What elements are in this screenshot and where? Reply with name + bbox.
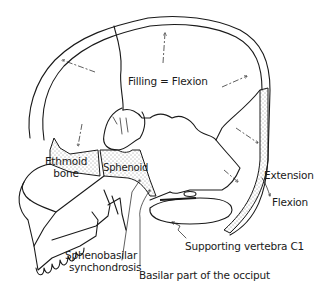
vertebra-c1 — [150, 198, 232, 224]
cranial-vault — [29, 17, 270, 236]
sphenoid-bone — [100, 108, 156, 196]
label-sphenobasilar-line2: synchondrosis — [69, 261, 141, 273]
label-extension: Extension — [264, 169, 314, 181]
skull-diagram: Filling = Flexion Ethmoid bone Sphenoid … — [0, 0, 325, 293]
motion-arrows — [62, 33, 270, 266]
label-ethmoid-line2: bone — [40, 167, 92, 179]
label-filling-flexion: Filling = Flexion — [128, 75, 208, 87]
label-supporting-vertebra-c1: Supporting vertebra C1 — [185, 240, 304, 252]
label-basilar-part-occiput: Basilar part of the occiput — [139, 269, 270, 281]
label-sphenoid: Sphenoid — [103, 162, 148, 174]
label-ethmoid-line1: Ethmoid — [40, 155, 92, 167]
label-sphenobasilar-line1: Sphenobasilar — [65, 249, 137, 261]
label-flexion: Flexion — [272, 196, 308, 208]
